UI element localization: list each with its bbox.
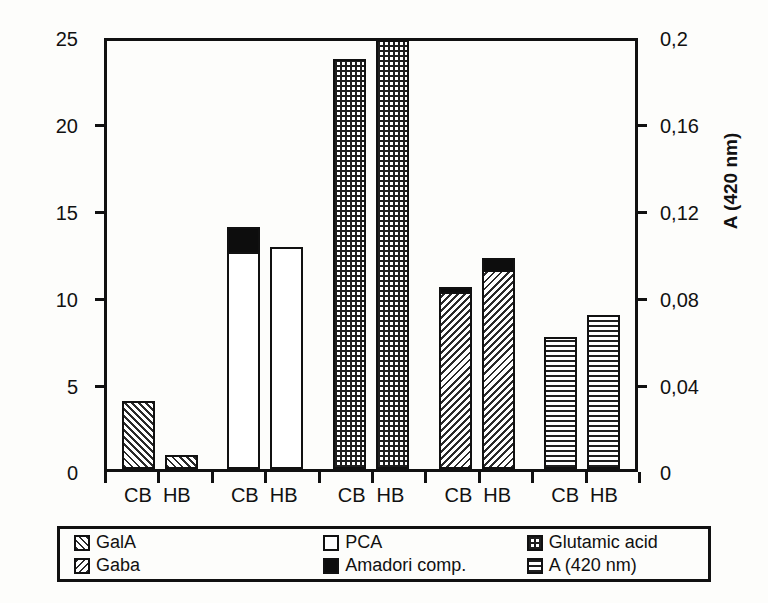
x-tick-label-1-hb: HB — [163, 484, 191, 507]
x-tick-label-4-cb: CB — [444, 484, 472, 507]
x-tickmark-2 — [318, 472, 321, 483]
x-tick-label-3-hb: HB — [376, 484, 404, 507]
y-tick-left-15: 15 — [56, 203, 78, 223]
x-tickmark-mid-4 — [585, 472, 588, 483]
y-tick-right-0-12: 0,12 — [660, 203, 699, 223]
y-tick-right-0-2: 0,2 — [660, 29, 688, 49]
x-tick-label-3-cb: CB — [338, 484, 366, 507]
x-tickmark-1 — [211, 472, 214, 483]
y-tickmark-left-10 — [95, 298, 104, 301]
bar-series-container — [107, 41, 635, 469]
bar-5-hb — [587, 315, 620, 469]
legend-item-gala: GalA — [74, 532, 285, 553]
x-tick-label-2-cb: CB — [231, 484, 259, 507]
bar-group-glutamic-acid — [318, 41, 424, 469]
bar-group-gala — [107, 41, 213, 469]
y-tick-right-0-08: 0,08 — [660, 290, 699, 310]
legend-item-gaba: Gaba — [74, 555, 285, 576]
legend-item-glutamic-acid: Glutamic acid — [497, 532, 708, 553]
x-tickmark-3 — [424, 472, 427, 483]
bar-group-pca — [213, 41, 319, 469]
bar-1-hb — [165, 455, 198, 469]
legend-label: Glutamic acid — [549, 532, 658, 553]
y-tickmark-right-004 — [638, 385, 647, 388]
y-tickmark-right-008 — [638, 298, 647, 301]
y-tickmark-right-012 — [638, 211, 647, 214]
bar-4-hb-amadori-segment — [482, 258, 515, 272]
legend-label: GalA — [96, 532, 136, 553]
x-tick-label-2-hb: HB — [270, 484, 298, 507]
legend-swatch-grid-icon — [527, 535, 543, 551]
y-tickmark-right-016 — [638, 124, 647, 127]
x-tick-label-5-hb: HB — [590, 484, 618, 507]
x-tick-label-1-cb: CB — [124, 484, 152, 507]
bar-1-cb — [122, 401, 155, 469]
x-label-group-4: CBHB — [424, 484, 531, 507]
legend-swatch-horizontal-lines-icon — [527, 558, 543, 574]
bar-2-cb — [227, 250, 260, 469]
legend-swatch-diagonal-forward-icon — [74, 535, 90, 551]
bar-4-cb-amadori-segment — [439, 287, 472, 294]
bar-3-cb — [333, 59, 366, 469]
x-tickmark-mid-2 — [371, 472, 374, 483]
bar-3-hb — [376, 40, 409, 469]
x-label-group-3: CBHB — [318, 484, 425, 507]
x-label-group-1: CBHB — [104, 484, 211, 507]
bar-2-cb-amadori-segment — [227, 227, 260, 255]
bar-4-hb — [482, 268, 515, 469]
y-tick-right-0: 0 — [660, 463, 671, 483]
x-tickmark-0 — [104, 472, 107, 483]
x-tickmark-4 — [531, 472, 534, 483]
legend-swatch-diagonal-backward-icon — [74, 558, 90, 574]
y-tick-left-20: 20 — [56, 116, 78, 136]
y-tick-left-25: 25 — [56, 29, 78, 49]
x-label-group-2: CBHB — [211, 484, 318, 507]
x-tick-label-4-hb: HB — [483, 484, 511, 507]
legend-label: A (420 nm) — [549, 555, 637, 576]
y-tickmark-left-5 — [95, 385, 104, 388]
bar-4-cb — [439, 290, 472, 469]
legend-swatch-solid-black-icon — [323, 558, 339, 574]
x-tickmark-mid-3 — [478, 472, 481, 483]
x-label-group-5: CBHB — [531, 484, 638, 507]
bar-5-cb — [544, 337, 577, 469]
legend-item-a-420-nm: A (420 nm) — [497, 555, 708, 576]
y-tick-right-0-16: 0,16 — [660, 116, 699, 136]
legend-item-amadori-comp: Amadori comp. — [285, 555, 496, 576]
legend-swatch-empty-icon — [323, 535, 339, 551]
bar-group-a-420-nm — [529, 41, 635, 469]
bar-2-hb — [270, 247, 303, 469]
plot-area — [104, 38, 638, 472]
y-tickmark-left-20 — [95, 124, 104, 127]
chart-figure: mmol/100 g DM A (420 nm) 25 20 15 10 5 0… — [0, 0, 768, 603]
bar-group-gaba — [424, 41, 530, 469]
legend-label: PCA — [345, 532, 382, 553]
x-tickmark-mid-1 — [264, 472, 267, 483]
y-tickmark-left-15 — [95, 211, 104, 214]
y-tick-right-0-04: 0,04 — [660, 377, 699, 397]
chart-legend: GalAPCAGlutamic acidGabaAmadori comp.A (… — [57, 526, 711, 582]
y-tick-left-10: 10 — [56, 290, 78, 310]
x-axis-labels: CBHBCBHBCBHBCBHBCBHB — [104, 484, 638, 507]
x-tickmark-5 — [638, 472, 641, 483]
y-tick-left-0: 0 — [67, 463, 78, 483]
legend-label: Gaba — [96, 555, 140, 576]
y-tick-left-5: 5 — [67, 377, 78, 397]
y-axis-right-title: A (420 nm) — [720, 86, 742, 276]
legend-item-pca: PCA — [285, 532, 496, 553]
x-tickmark-mid-0 — [157, 472, 160, 483]
legend-label: Amadori comp. — [345, 555, 466, 576]
x-tick-label-5-cb: CB — [551, 484, 579, 507]
